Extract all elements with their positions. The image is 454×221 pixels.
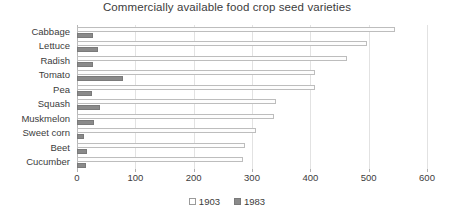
legend-item-1983[interactable]: 1983: [234, 196, 265, 207]
xtick-label-500: 500: [349, 172, 389, 184]
bar-squash-1903: [77, 99, 276, 104]
category-axis-labels: CabbageLettuceRadishTomatoPeaSquashMuskm…: [0, 25, 74, 170]
bar-muskmelon-1903: [77, 114, 274, 119]
bar-sweet-corn-1903: [77, 128, 256, 133]
bar-cucumber-1903: [77, 157, 243, 162]
bar-row: [77, 69, 427, 84]
bar-row: [77, 112, 427, 127]
category-label-cucumber: Cucumber: [0, 157, 70, 167]
legend-label-1903: 1903: [199, 196, 220, 207]
bar-pea-1903: [77, 85, 315, 90]
xtick-label-300: 300: [232, 172, 272, 184]
xtick-label-600: 600: [407, 172, 447, 184]
bar-cucumber-1983: [77, 163, 86, 168]
bar-beet-1903: [77, 143, 245, 148]
bar-row: [77, 25, 427, 40]
bar-radish-1903: [77, 56, 347, 61]
bar-row: [77, 54, 427, 69]
category-label-tomato: Tomato: [0, 70, 70, 80]
xtick-label-400: 400: [290, 172, 330, 184]
bar-row: [77, 98, 427, 113]
legend-swatch-1983: [234, 198, 241, 205]
bar-row: [77, 127, 427, 142]
bar-row: [77, 141, 427, 156]
bar-radish-1983: [77, 62, 93, 67]
chart-title: Commercially available food crop seed va…: [0, 1, 454, 13]
bar-cabbage-1983: [77, 33, 93, 38]
bar-pea-1983: [77, 91, 92, 96]
bar-cabbage-1903: [77, 27, 395, 32]
bar-squash-1983: [77, 105, 100, 110]
category-label-sweet-corn: Sweet corn: [0, 128, 70, 138]
legend-item-1903[interactable]: 1903: [189, 196, 220, 207]
category-label-beet: Beet: [0, 143, 70, 153]
chart-legend: 19031983: [0, 196, 454, 207]
category-label-squash: Squash: [0, 99, 70, 109]
bar-row: [77, 40, 427, 55]
xtick-label-100: 100: [115, 172, 155, 184]
legend-swatch-1903: [189, 198, 196, 205]
bar-sweet-corn-1983: [77, 134, 84, 139]
category-label-muskmelon: Muskmelon: [0, 114, 70, 124]
bar-tomato-1903: [77, 70, 315, 75]
category-label-lettuce: Lettuce: [0, 41, 70, 51]
xtick-label-200: 200: [174, 172, 214, 184]
legend-label-1983: 1983: [244, 196, 265, 207]
value-axis-labels: 0100200300400500600: [0, 172, 454, 186]
category-label-pea: Pea: [0, 85, 70, 95]
category-label-radish: Radish: [0, 56, 70, 66]
bar-lettuce-1983: [77, 47, 98, 52]
bar-beet-1983: [77, 149, 87, 154]
bar-tomato-1983: [77, 76, 123, 81]
xtick-label-0: 0: [57, 172, 97, 184]
chart-container: Commercially available food crop seed va…: [0, 0, 454, 221]
category-label-cabbage: Cabbage: [0, 27, 70, 37]
bar-row: [77, 83, 427, 98]
gridline-600: [427, 25, 428, 170]
bar-lettuce-1903: [77, 41, 367, 46]
plot-area: [77, 25, 427, 170]
bar-row: [77, 156, 427, 171]
bar-muskmelon-1983: [77, 120, 94, 125]
